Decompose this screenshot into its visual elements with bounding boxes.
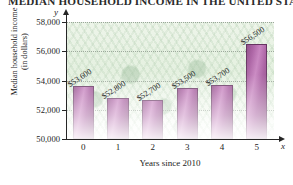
bar xyxy=(177,88,198,139)
y-tick-mark xyxy=(62,110,67,111)
y-axis-letter: y xyxy=(54,7,58,17)
bar xyxy=(73,86,94,139)
x-tick-label: 3 xyxy=(177,142,197,152)
y-tick-label: 50,000 xyxy=(14,134,60,144)
gridline xyxy=(66,51,274,52)
y-tick-mark xyxy=(62,51,67,52)
bar xyxy=(107,98,128,139)
gridline xyxy=(66,81,274,82)
y-tick-label: 54,000 xyxy=(14,76,60,86)
y-axis-line xyxy=(66,14,67,139)
y-tick-mark xyxy=(62,22,67,23)
y-tick-label: 56,000 xyxy=(14,46,60,56)
y-tick-label: 52,000 xyxy=(14,105,60,115)
x-axis-line xyxy=(66,139,280,140)
y-axis-arrow-icon xyxy=(63,9,69,15)
x-axis-label: Years since 2010 xyxy=(66,158,274,168)
x-tick-label: 4 xyxy=(212,142,232,152)
x-tick-label: 1 xyxy=(108,142,128,152)
x-axis-letter: x xyxy=(281,141,285,151)
x-tick-label: 5 xyxy=(247,142,267,152)
bar xyxy=(142,100,163,139)
bar xyxy=(211,85,232,139)
bar xyxy=(246,44,267,139)
y-tick-mark xyxy=(62,139,67,140)
gridline xyxy=(66,110,274,111)
y-tick-mark xyxy=(62,81,67,82)
x-tick-label: 2 xyxy=(143,142,163,152)
gridline xyxy=(66,22,274,23)
y-tick-label: 58,000 xyxy=(14,17,60,27)
x-tick-label: 0 xyxy=(73,142,93,152)
chart-title: MEDIAN HOUSEHOLD INCOME IN THE UNITED ST… xyxy=(8,0,293,7)
chart-figure: MEDIAN HOUSEHOLD INCOME IN THE UNITED ST… xyxy=(0,0,293,185)
